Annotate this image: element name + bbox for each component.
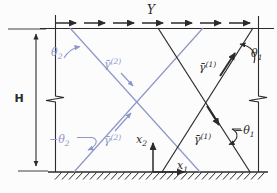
bottom-hatching (55, 173, 265, 180)
theta2-label: θ2 (51, 46, 63, 61)
slip-plane-2-ascending (74, 28, 203, 172)
slip-plane-1-ascending (162, 28, 253, 172)
slip-system-2-lines (70, 28, 203, 172)
theta2-angle-arc-icon (64, 47, 80, 59)
gamma1-upper-label: γ̄(1) (199, 60, 216, 75)
left-edge-with-break-icon (46, 15, 64, 172)
gamma2-upper-label: γ̄(2) (104, 57, 121, 72)
neg-theta2-angle-arc-icon (77, 138, 96, 151)
gamma1-upper-arrow-icon (220, 53, 235, 76)
gamma2-upper-arrow-icon (121, 73, 133, 86)
neg-theta2-label: −θ2 (49, 133, 70, 148)
gamma2-lower-label: γ̄(2) (104, 133, 121, 148)
neg-theta1-label: −θ1 (234, 124, 255, 139)
right-edge-with-break-icon (249, 16, 267, 172)
diagram-canvas: Y H x2 x1 θ2 −θ2 γ̄(2) γ̄(2) γ̄(1) γ̄(1) (0, 0, 277, 193)
gamma1-lower-arrow-icon (207, 106, 219, 125)
height-label: H (14, 92, 23, 105)
slip-system-shear-diagram: Y H x2 x1 θ2 −θ2 γ̄(2) γ̄(2) γ̄(1) γ̄(1) (0, 0, 277, 193)
slip-system-1-lines (158, 28, 253, 172)
slip-plane-1-descending (158, 28, 250, 172)
gamma2-lower-arrow-icon (115, 113, 131, 131)
gamma1-lower-label: γ̄(1) (194, 132, 211, 147)
theta1-label: θ1 (251, 47, 262, 62)
x2-axis-label: x2 (136, 133, 147, 148)
shear-label: Y (147, 3, 156, 17)
slip-plane-2-descending (70, 28, 200, 172)
x1-axis-label: x1 (177, 159, 188, 174)
